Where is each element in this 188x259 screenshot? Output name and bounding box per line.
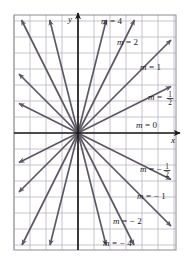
slope-value: 4 xyxy=(118,16,123,26)
slope-symbol: m xyxy=(140,62,147,72)
slope-label-text: m=4 xyxy=(101,16,123,26)
slope-symbol: m xyxy=(148,92,155,102)
slope-symbol: m xyxy=(136,120,143,130)
equals-sign: = xyxy=(149,164,154,174)
slope-label: m=2 xyxy=(117,37,138,47)
slope-label-text: m=2 xyxy=(117,37,138,47)
slope-label: m=0 xyxy=(136,120,158,130)
slope-value: 4 xyxy=(127,238,132,248)
slope-value: 2 xyxy=(137,216,142,226)
equals-sign: = xyxy=(112,238,117,248)
equals-sign: = xyxy=(149,62,154,72)
slope-value: 2 xyxy=(134,37,139,47)
slope-symbol: m xyxy=(113,216,120,226)
minus-sign: − xyxy=(120,238,125,248)
slope-value: 1 xyxy=(161,191,166,201)
slope-label: m=1 xyxy=(140,62,161,72)
slope-symbol: m xyxy=(101,16,108,26)
slope-symbol: m xyxy=(103,238,110,248)
slope-value: 0 xyxy=(153,120,158,130)
slope-symbol: m xyxy=(140,164,147,174)
fraction-denominator: 2 xyxy=(165,170,169,179)
minus-sign: − xyxy=(130,216,135,226)
coordinate-plane-svg: x y m=4m=2m=1m= 12m=0m=− 12m=−1m=−2m=−4 xyxy=(0,0,188,259)
equals-sign: = xyxy=(145,120,150,130)
minus-sign: − xyxy=(157,164,162,174)
equals-sign: = xyxy=(146,191,151,201)
minus-sign: − xyxy=(154,191,159,201)
slope-label-text: m=0 xyxy=(136,120,158,130)
slope-diagram-figure: x y m=4m=2m=1m= 12m=0m=− 12m=−1m=−2m=−4 xyxy=(0,0,188,259)
slope-symbol: m xyxy=(137,191,144,201)
slope-symbol: m xyxy=(117,37,124,47)
fraction-denominator: 2 xyxy=(168,98,172,107)
y-axis-label: y xyxy=(67,14,72,24)
slope-label: m=4 xyxy=(101,16,123,26)
equals-sign: = xyxy=(157,92,162,102)
equals-sign: = xyxy=(126,37,131,47)
equals-sign: = xyxy=(122,216,127,226)
equals-sign: = xyxy=(110,16,115,26)
slope-label-text: m=1 xyxy=(140,62,161,72)
slope-value: 1 xyxy=(157,62,162,72)
slope-label-text: m=− xyxy=(140,164,162,174)
x-axis-label: x xyxy=(170,135,175,145)
